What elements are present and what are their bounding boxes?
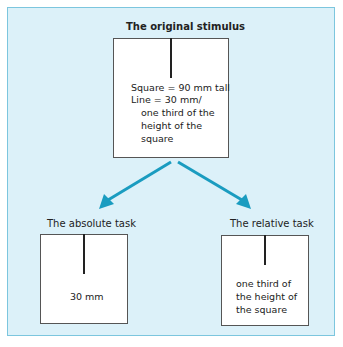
arrow-left-icon [99,162,171,209]
relative-text-2: the height of [236,290,297,303]
relative-task-line [264,235,266,265]
relative-text-3: the square [236,303,287,316]
relative-task-title: The relative task [230,218,314,229]
relative-text-1: one third of [236,277,291,290]
absolute-task-title: The absolute task [47,218,136,229]
absolute-task-label: 30 mm [70,290,104,303]
absolute-task-line [83,234,85,274]
arrow-right-icon [178,162,251,209]
